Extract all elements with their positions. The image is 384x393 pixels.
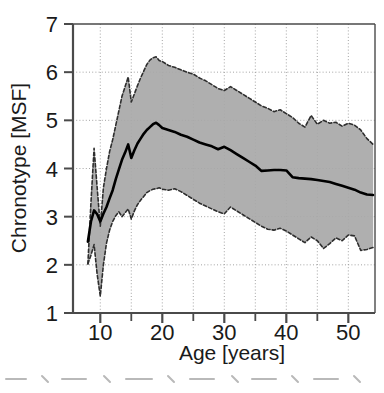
y-axis-ticks (64, 24, 73, 313)
chart-figure: 1234567 1020304050 Age [years] Chronotyp… (0, 0, 384, 393)
y-axis-label: Chronotype [MSF] (7, 83, 30, 253)
y-tick-label: 5 (46, 108, 58, 133)
x-tick-label: 20 (150, 320, 174, 345)
x-tick-label: 10 (88, 320, 112, 345)
y-tick-label: 4 (46, 157, 58, 182)
chronotype-vs-age-chart: 1234567 1020304050 Age [years] Chronotyp… (0, 0, 384, 393)
y-tick-label: 2 (46, 253, 58, 278)
y-tick-label: 6 (46, 60, 58, 85)
page-scan-artifact (0, 370, 384, 393)
y-tick-label: 7 (46, 12, 58, 37)
y-tick-label: 3 (46, 205, 58, 230)
x-tick-label: 50 (336, 320, 360, 345)
y-axis-tick-labels: 1234567 (46, 12, 58, 326)
y-tick-label: 1 (46, 301, 58, 326)
x-axis-label: Age [years] (179, 341, 285, 364)
